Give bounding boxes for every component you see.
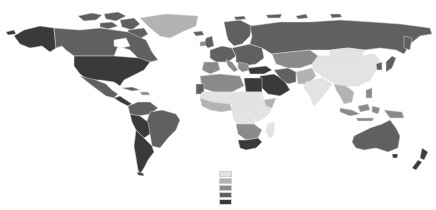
- region-kamchatka[interactable]: [404, 36, 412, 50]
- region-russia-islands[interactable]: [234, 14, 342, 20]
- region-north-africa[interactable]: [200, 74, 244, 92]
- region-iceland[interactable]: [193, 31, 204, 36]
- region-central-america[interactable]: [114, 96, 132, 106]
- legend-swatch-3: [219, 185, 232, 191]
- legend-swatch-1: [219, 171, 232, 177]
- region-japan[interactable]: [386, 56, 396, 72]
- region-india[interactable]: [304, 78, 332, 106]
- region-greenland[interactable]: [140, 14, 198, 38]
- region-iberia[interactable]: [202, 62, 220, 74]
- region-caribbean[interactable]: [122, 87, 140, 91]
- region-south-africa[interactable]: [238, 138, 262, 150]
- region-australia[interactable]: [352, 120, 400, 152]
- legend-swatch-4: [219, 192, 232, 198]
- region-tasmania[interactable]: [392, 154, 398, 158]
- region-turkey[interactable]: [248, 66, 272, 74]
- region-southern-africa[interactable]: [236, 124, 262, 140]
- region-tierra-del-fuego[interactable]: [137, 172, 144, 176]
- world-choropleth-map: [0, 0, 436, 210]
- region-philippines[interactable]: [366, 88, 372, 98]
- region-scandinavia[interactable]: [224, 20, 252, 46]
- region-madagascar[interactable]: [266, 122, 274, 138]
- region-ireland[interactable]: [200, 41, 205, 46]
- region-caribbean-2[interactable]: [140, 92, 150, 95]
- region-southeast-asia[interactable]: [334, 84, 354, 104]
- legend-swatch-2: [219, 178, 232, 184]
- region-aleutians[interactable]: [6, 30, 16, 35]
- region-uk[interactable]: [204, 36, 214, 48]
- legend-swatch-5: [219, 199, 232, 205]
- region-alaska[interactable]: [14, 26, 56, 52]
- region-united-states[interactable]: [74, 56, 150, 86]
- map-legend: [219, 171, 232, 205]
- region-new-zealand[interactable]: [412, 148, 428, 170]
- region-egypt-libya[interactable]: [244, 78, 262, 92]
- region-brazil[interactable]: [146, 110, 180, 148]
- region-indonesia[interactable]: [340, 104, 404, 121]
